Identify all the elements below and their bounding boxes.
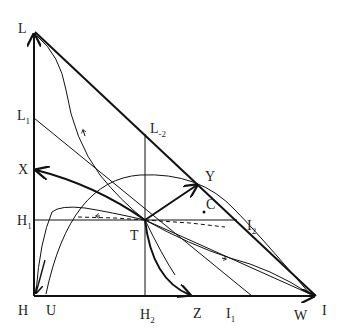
label-X: X [18,163,28,177]
label-H2: H2 [140,308,155,325]
label-T: T [130,229,139,243]
label-L2: L-2 [150,122,166,139]
label-I2: I2 [247,219,256,236]
traj-L-to-T-arrow [83,130,85,136]
label-L: L [18,22,27,36]
label-H1: H1 [17,214,32,231]
label-Y: Y [205,170,215,184]
label-Z: Z [193,307,202,321]
traj-T-to-W-arrow [222,258,226,259]
ternary-diagram: L L1 L-2 X H1 T H U H2 Z I1 W I C Y I2 [0,0,341,336]
label-W: W [294,309,307,323]
label-H: H [18,304,28,318]
arrow-T-Z [145,220,190,295]
hypotenuse-L-I [35,32,316,296]
traj-L-to-T [37,36,145,220]
label-L1: L1 [17,109,30,126]
label-I1: I1 [226,307,235,324]
arrow-T-Y [145,185,197,220]
diagram-canvas [0,0,341,336]
label-U: U [46,304,56,318]
label-I: I [322,304,327,318]
label-C: C [206,198,215,212]
